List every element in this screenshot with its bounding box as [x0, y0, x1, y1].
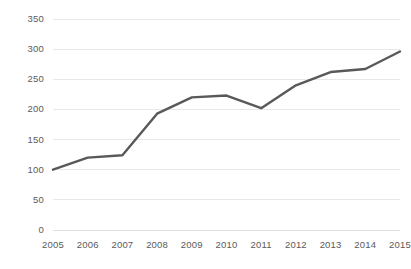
gridlines — [53, 19, 400, 230]
data-series — [53, 52, 400, 170]
x-tick-label: 2012 — [285, 239, 307, 250]
x-tick-label: 2008 — [146, 239, 168, 250]
x-tick-label: 2011 — [251, 239, 272, 250]
x-tick-label: 2013 — [320, 239, 342, 250]
x-tick-label: 2014 — [354, 239, 376, 250]
x-tick-label: 2005 — [42, 239, 64, 250]
x-tick-label: 2015 — [389, 239, 411, 250]
x-tick-label: 2007 — [111, 239, 133, 250]
x-tick-label: 2006 — [77, 239, 99, 250]
x-tick-label: 2009 — [181, 239, 203, 250]
x-tick-label: 2010 — [216, 239, 238, 250]
series-line — [53, 52, 400, 170]
